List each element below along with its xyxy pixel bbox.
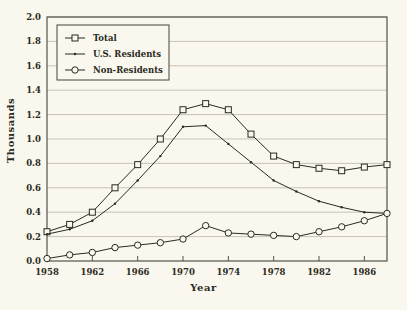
legend-label: U.S. Residents <box>93 49 161 59</box>
data-point <box>44 255 50 261</box>
y-axis-tick-label: 2.0 <box>26 12 41 22</box>
x-axis-title: Year <box>0 282 407 293</box>
x-axis-tick-label: 1958 <box>35 267 59 277</box>
legend-label: Total <box>93 33 117 43</box>
data-point <box>316 165 322 171</box>
data-point <box>361 164 367 170</box>
data-point <box>89 209 95 215</box>
data-point <box>46 233 48 235</box>
x-axis-tick-label: 1970 <box>171 267 195 277</box>
data-point <box>225 107 231 113</box>
legend-marker-square <box>72 35 78 41</box>
x-axis-tick-label: 1966 <box>126 267 150 277</box>
y-axis-tick-label: 1.4 <box>26 85 41 95</box>
series-u-s-residents <box>46 124 388 235</box>
data-point <box>112 185 118 191</box>
data-point <box>67 221 73 227</box>
x-axis-tick-label: 1982 <box>307 267 331 277</box>
data-point <box>316 229 322 235</box>
x-axis-tick-label: 1962 <box>80 267 104 277</box>
data-point <box>248 131 254 137</box>
line-chart-plot: 0.00.20.40.60.81.01.21.41.61.82.01958196… <box>0 0 407 285</box>
data-point <box>89 249 95 255</box>
data-point <box>248 231 254 237</box>
data-point <box>182 126 184 128</box>
x-axis-tick-label: 1986 <box>352 267 376 277</box>
series-line <box>47 213 387 258</box>
legend-marker-circle <box>72 67 78 73</box>
data-point <box>384 210 390 216</box>
y-axis-tick-label: 0.4 <box>26 207 41 217</box>
y-axis-tick-label: 0.0 <box>26 256 41 266</box>
data-point <box>384 162 390 168</box>
data-point <box>91 220 93 222</box>
data-point <box>271 153 277 159</box>
legend-label: Non-Residents <box>93 65 163 75</box>
y-axis-tick-label: 1.2 <box>26 110 41 120</box>
data-point <box>272 179 274 181</box>
data-point <box>363 211 365 213</box>
data-point <box>180 236 186 242</box>
data-point <box>339 168 345 174</box>
y-axis-title: Thousands <box>2 0 20 260</box>
data-point <box>66 252 72 258</box>
data-point <box>159 155 161 157</box>
data-point <box>250 161 252 163</box>
data-point <box>157 136 163 142</box>
data-point <box>203 101 209 107</box>
chart-container: Thousands 0.00.20.40.60.81.01.21.41.61.8… <box>0 0 407 310</box>
data-point <box>112 244 118 250</box>
data-point <box>227 143 229 145</box>
x-axis-tick-label: 1974 <box>216 267 240 277</box>
y-axis-tick-label: 1.6 <box>26 61 41 71</box>
data-point <box>134 242 140 248</box>
chart-legend: TotalU.S. ResidentsNon-Residents <box>57 25 169 80</box>
data-point <box>202 222 208 228</box>
y-axis-tick-label: 1.8 <box>26 36 41 46</box>
data-point <box>361 218 367 224</box>
data-point <box>318 200 320 202</box>
data-point <box>338 224 344 230</box>
data-point <box>225 230 231 236</box>
data-point <box>180 107 186 113</box>
legend-marker-dot <box>74 53 76 55</box>
data-point <box>340 206 342 208</box>
data-point <box>204 124 206 126</box>
x-axis-tick-label: 1978 <box>262 267 286 277</box>
data-point <box>293 162 299 168</box>
y-axis-tick-label: 0.8 <box>26 158 41 168</box>
series-total <box>44 101 390 235</box>
data-point <box>293 233 299 239</box>
data-point <box>135 162 141 168</box>
series-line <box>47 126 387 235</box>
data-point <box>136 179 138 181</box>
data-point <box>114 202 116 204</box>
data-point <box>157 240 163 246</box>
y-axis-tick-label: 0.6 <box>26 183 41 193</box>
data-point <box>68 228 70 230</box>
y-axis-tick-label: 0.2 <box>26 232 41 242</box>
data-point <box>270 232 276 238</box>
data-point <box>295 190 297 192</box>
y-axis-tick-label: 1.0 <box>26 134 41 144</box>
